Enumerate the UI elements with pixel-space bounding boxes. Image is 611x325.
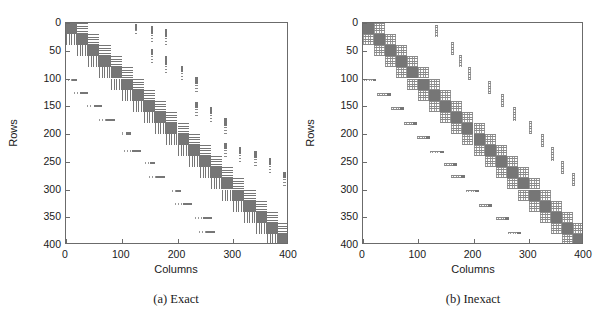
matrix-superdiagonal-block (166, 112, 177, 123)
matrix-superdiagonal-block (529, 178, 540, 189)
matrix-upper-scatter-dots (435, 25, 438, 37)
matrix-diagonal-block (88, 45, 99, 56)
matrix-diagonal-block (507, 167, 518, 178)
matrix-superdiagonal-block (573, 223, 583, 234)
y-axis-tick-label: 400 (330, 238, 358, 250)
matrix-lower-scatter-dash (94, 105, 102, 107)
matrix-subdiagonal-block (189, 156, 200, 167)
matrix-superdiagonal-block (451, 101, 462, 112)
x-axis-label-exact: Columns (154, 263, 197, 275)
matrix-lower-scatter-dash (126, 132, 131, 134)
matrix-subdiagonal-block (267, 234, 278, 244)
y-axis-tick (66, 23, 70, 24)
matrix-lower-scatter-dash (453, 163, 457, 166)
matrix-superdiagonal-block (496, 145, 507, 156)
matrix-subdiagonal-block (155, 123, 166, 134)
matrix-diagonal-block (418, 79, 429, 90)
y-axis-tick-label: 400 (33, 238, 61, 250)
matrix-subdiagonal-block (133, 101, 144, 112)
matrix-diagonal-block (551, 212, 562, 223)
matrix-upper-scatter-dots (239, 155, 241, 163)
matrix-diagonal-block (189, 145, 200, 156)
matrix-upper-scatter-bar (269, 158, 271, 165)
y-axis-label-inexact: Rows (304, 119, 316, 147)
matrix-diagonal-block (99, 56, 110, 67)
matrix-upper-scatter-dots (181, 73, 183, 80)
x-axis-tick (474, 239, 475, 243)
matrix-superdiagonal-block (77, 23, 88, 34)
y-axis-tick (363, 217, 367, 218)
matrix-subdiagonal-block (485, 156, 496, 167)
matrix-upper-scatter-bar (165, 29, 167, 37)
matrix-upper-scatter-bar (195, 77, 197, 84)
matrix-diagonal-block (474, 134, 485, 145)
matrix-lower-scatter-dots (466, 190, 475, 193)
x-axis-tick (363, 239, 364, 243)
x-axis-tick-label: 200 (168, 248, 186, 260)
matrix-superdiagonal-block (99, 45, 110, 56)
matrix-lower-scatter-dots (496, 217, 505, 220)
matrix-lower-scatter-dash (413, 122, 417, 125)
matrix-lower-scatter-dots (479, 204, 488, 207)
matrix-upper-scatter-dots (541, 134, 544, 147)
matrix-diagonal-block (518, 178, 529, 189)
matrix-superdiagonal-block (407, 56, 418, 67)
y-axis-tick (66, 162, 70, 163)
matrix-lower-scatter-dash (106, 119, 115, 121)
matrix-lower-scatter-dash (80, 92, 88, 94)
matrix-lower-scatter-dash (475, 190, 479, 193)
matrix-upper-scatter-bar (151, 26, 153, 33)
matrix-subdiagonal-block (451, 123, 462, 134)
matrix-upper-scatter-bar (210, 107, 212, 114)
matrix-upper-scatter-dots (459, 55, 462, 67)
matrix-subdiagonal-block (396, 67, 407, 78)
y-axis-tick-label: 250 (33, 155, 61, 167)
matrix-superdiagonal-block (200, 145, 211, 156)
matrix-upper-scatter-dots (551, 147, 554, 160)
matrix-subdiagonal-block (144, 112, 155, 123)
y-axis-tick (363, 23, 367, 24)
matrix-lower-scatter-dots (87, 105, 93, 107)
matrix-lower-scatter-dots (199, 231, 206, 233)
matrix-diagonal-block (267, 223, 278, 234)
x-axis-tick-label: 300 (519, 248, 537, 260)
matrix-diagonal-block (133, 90, 144, 101)
matrix-superdiagonal-block (374, 23, 385, 34)
matrix-superdiagonal-block (233, 178, 244, 189)
x-axis-tick-label: 400 (574, 248, 592, 260)
x-axis-tick-label: 100 (112, 248, 130, 260)
matrix-diagonal-block (77, 34, 88, 45)
matrix-subdiagonal-block (200, 167, 211, 178)
matrix-lower-scatter-dots (377, 93, 386, 96)
x-axis-tick-label: 0 (359, 248, 365, 260)
matrix-subdiagonal-block (178, 145, 189, 156)
y-axis-tick-label: 350 (33, 210, 61, 222)
matrix-lower-scatter-dots (444, 163, 453, 166)
matrix-upper-scatter-bar (224, 143, 226, 149)
y-axis-tick (66, 51, 70, 52)
matrix-lower-scatter-dots (74, 92, 80, 94)
matrix-upper-scatter-dots (501, 94, 504, 107)
matrix-upper-scatter-dots (151, 56, 153, 63)
matrix-upper-scatter-dots (210, 115, 212, 123)
matrix-lower-scatter-dash (373, 79, 377, 82)
matrix-lower-scatter-dots (451, 175, 460, 178)
matrix-superdiagonal-block (244, 190, 255, 201)
matrix-diagonal-block (155, 112, 166, 123)
matrix-lower-scatter-dash (488, 204, 492, 207)
matrix-superdiagonal-block (211, 156, 222, 167)
matrix-diagonal-block (222, 178, 233, 189)
matrix-upper-scatter-dots (165, 38, 167, 47)
matrix-subdiagonal-block (540, 212, 551, 223)
matrix-lower-scatter-dash (203, 217, 212, 219)
matrix-diagonal-block (233, 190, 244, 201)
y-axis-tick-label: 300 (330, 183, 358, 195)
matrix-diagonal-block (111, 67, 122, 78)
matrix-superdiagonal-block (144, 90, 155, 101)
matrix-superdiagonal-block (155, 101, 166, 112)
matrix-lower-scatter-dots (175, 203, 182, 205)
matrix-upper-scatter-dots (529, 121, 532, 134)
matrix-lower-scatter-dots (508, 232, 517, 235)
matrix-subdiagonal-block (507, 178, 518, 189)
matrix-lower-scatter-dash (440, 151, 444, 154)
